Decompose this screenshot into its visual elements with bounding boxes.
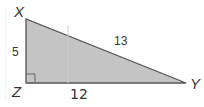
vertex-label-x: X bbox=[13, 3, 25, 20]
side-label-xz: 5 bbox=[12, 45, 19, 59]
vertex-label-z: Z bbox=[11, 83, 22, 100]
triangle-diagram: X Z Y 5 13 12 bbox=[0, 0, 204, 107]
side-label-xy: 13 bbox=[114, 34, 128, 48]
side-label-zy: 12 bbox=[70, 86, 88, 102]
vertex-label-y: Y bbox=[190, 75, 201, 92]
triangle-xyz bbox=[26, 19, 186, 83]
